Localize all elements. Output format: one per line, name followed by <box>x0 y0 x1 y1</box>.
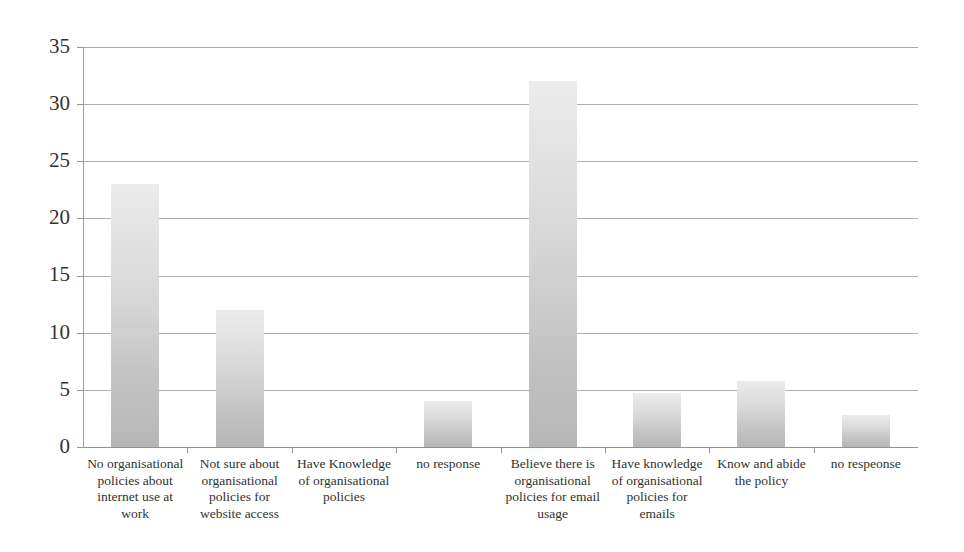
x-axis-tick <box>396 447 397 453</box>
bar-1[interactable] <box>216 310 264 447</box>
x-axis-category-label-line: organisational <box>187 473 291 490</box>
bar-0[interactable] <box>111 184 159 447</box>
plot-area <box>83 47 918 447</box>
x-axis-tick <box>605 447 606 453</box>
y-axis-tick <box>77 447 84 448</box>
x-axis-category-label: Have Knowledgeof organisationalpolicies <box>292 456 396 506</box>
y-axis-tick-label: 20 <box>49 207 70 228</box>
y-axis-tick-label: 0 <box>60 436 71 457</box>
bar-series <box>83 47 918 447</box>
x-axis-category-label-line: policies for email <box>501 489 605 506</box>
x-axis-category-label-line: the policy <box>709 473 813 490</box>
x-axis-tick <box>709 447 710 453</box>
x-axis-category-label-line: of organisational <box>605 473 709 490</box>
x-axis-category-label-line: usage <box>501 506 605 523</box>
x-axis-category-label-line: Have Knowledge <box>292 456 396 473</box>
y-axis-tick-label: 30 <box>49 93 70 114</box>
x-axis-category-label-line: internet use at <box>83 489 187 506</box>
x-axis-category-label: no response <box>396 456 500 473</box>
x-axis-tick <box>814 447 815 453</box>
bar-chart: 35 30 25 20 15 10 5 0 <box>0 0 964 552</box>
x-axis-category-label-line: emails <box>605 506 709 523</box>
x-axis-tick <box>501 447 502 453</box>
y-axis-labels: 35 30 25 20 15 10 5 0 <box>0 47 70 447</box>
x-axis-category-label-line: no respeonse <box>814 456 918 473</box>
bar-3[interactable] <box>424 401 472 447</box>
x-axis-category-label-line: policies for <box>187 489 291 506</box>
x-axis-tick <box>292 447 293 453</box>
x-axis-tick <box>187 447 188 453</box>
x-axis-category-label-line: policies about <box>83 473 187 490</box>
x-axis-category-label: Know and abidethe policy <box>709 456 813 489</box>
x-axis-category-label: Not sure aboutorganisationalpolicies for… <box>187 456 291 522</box>
x-axis-category-label-line: Have knowledge <box>605 456 709 473</box>
x-axis-category-label-line: website access <box>187 506 291 523</box>
bar-5[interactable] <box>633 393 681 447</box>
x-axis-category-label-line: no response <box>396 456 500 473</box>
x-axis-category-label-line: Not sure about <box>187 456 291 473</box>
x-axis-category-label-line: of organisational <box>292 473 396 490</box>
y-axis-tick-label: 25 <box>49 150 70 171</box>
x-axis-category-label-line: policies for <box>605 489 709 506</box>
bar-6[interactable] <box>737 381 785 447</box>
x-axis-category-label-line: Know and abide <box>709 456 813 473</box>
x-axis-category-label-line: organisational <box>501 473 605 490</box>
y-axis-tick-label: 35 <box>49 36 70 57</box>
x-axis-category-label: No organisationalpolicies aboutinternet … <box>83 456 187 522</box>
x-axis-category-label-line: work <box>83 506 187 523</box>
y-axis-tick-label: 10 <box>49 322 70 343</box>
y-axis-tick-label: 5 <box>60 379 71 400</box>
x-axis-category-label-line: Believe there is <box>501 456 605 473</box>
x-axis-category-label-line: No organisational <box>83 456 187 473</box>
x-axis-labels: No organisationalpolicies aboutinternet … <box>83 456 918 546</box>
bar-7[interactable] <box>842 415 890 447</box>
x-axis-category-label-line: policies <box>292 489 396 506</box>
x-axis-category-label: Have knowledgeof organisationalpolicies … <box>605 456 709 522</box>
bar-4[interactable] <box>529 81 577 447</box>
x-axis-category-label: Believe there isorganisationalpolicies f… <box>501 456 605 522</box>
y-axis-tick-label: 15 <box>49 264 70 285</box>
x-axis-category-label: no respeonse <box>814 456 918 473</box>
